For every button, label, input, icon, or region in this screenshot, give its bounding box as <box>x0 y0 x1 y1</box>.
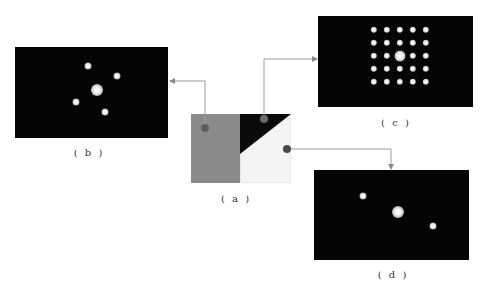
connector-to-c <box>264 59 317 119</box>
source-dot-gray <box>201 124 209 132</box>
source-dot-white <box>283 145 291 153</box>
connector-to-d <box>287 149 391 169</box>
connector-to-b <box>170 81 205 128</box>
connector-lines <box>0 0 486 289</box>
source-dot-black <box>260 115 268 123</box>
